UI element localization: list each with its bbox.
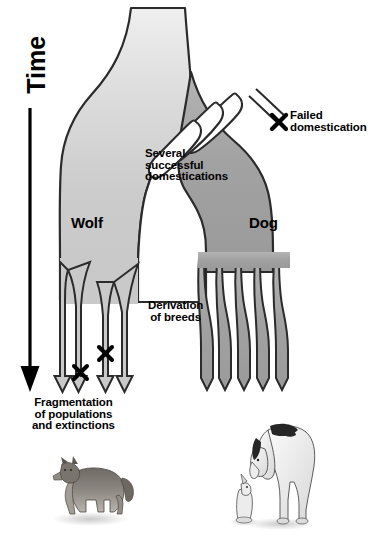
wolf-head bbox=[60, 463, 80, 484]
failed-domestication-label: Failed domestication bbox=[290, 110, 367, 133]
domestication-tree-diagram bbox=[0, 0, 379, 552]
dane-foot-right bbox=[296, 518, 308, 524]
wolf-photo bbox=[52, 456, 133, 526]
wolf-population-prongs bbox=[55, 258, 139, 392]
derivation-of-breeds-label: Derivation of breeds bbox=[148, 300, 203, 323]
dog-label: Dog bbox=[249, 215, 278, 230]
dog-breed-prong-3 bbox=[235, 258, 250, 390]
time-axis bbox=[21, 108, 40, 392]
dog-breed-prong-2 bbox=[216, 258, 231, 390]
failed-branch-line-b bbox=[256, 89, 286, 117]
dogs-photo bbox=[230, 424, 315, 530]
dane-body bbox=[268, 426, 315, 520]
fragmentation-label: Fragmentation of populations and extinct… bbox=[32, 397, 115, 432]
time-axis-arrowhead bbox=[21, 366, 40, 392]
wolf-label: Wolf bbox=[71, 215, 103, 230]
small-dog-eye bbox=[246, 486, 248, 488]
dane-foot-left bbox=[277, 518, 289, 524]
wolf-eye-right bbox=[70, 469, 72, 471]
small-dog-head bbox=[241, 483, 251, 496]
time-axis-label: Time bbox=[24, 20, 50, 110]
x-marker-failed-domestication bbox=[272, 115, 286, 129]
dog-breed-prong-4 bbox=[254, 258, 269, 390]
successful-domestications-label: Several successful domestications bbox=[145, 148, 228, 183]
small-dog-feet bbox=[236, 517, 252, 523]
wolf-ear-right bbox=[72, 456, 78, 464]
dog-prong-base bbox=[198, 252, 290, 268]
wolf-eye-left bbox=[64, 469, 66, 471]
dane-eye bbox=[257, 459, 259, 461]
dog-breed-prong-5 bbox=[273, 258, 288, 390]
